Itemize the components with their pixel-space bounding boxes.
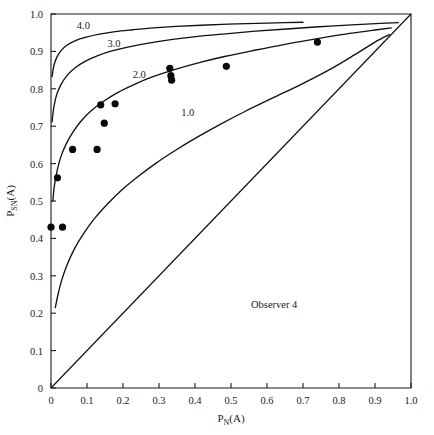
y-tick-label: 0.5 xyxy=(30,196,43,207)
x-axis-ticks xyxy=(51,383,411,388)
chance-diagonal-line xyxy=(51,14,411,388)
data-point xyxy=(47,224,54,231)
y-axis-title-sub: SN xyxy=(10,200,19,210)
data-point xyxy=(69,146,76,153)
y-axis-tick-labels: 00.10.20.30.40.50.60.70.80.91.0 xyxy=(30,9,44,394)
x-tick-label: 1.0 xyxy=(404,395,417,406)
data-point xyxy=(168,77,175,84)
data-point xyxy=(166,65,173,72)
y-axis-title-tail: (A) xyxy=(4,185,17,201)
roc-figure: 00.10.20.30.40.50.60.70.80.91.0 00.10.20… xyxy=(0,0,434,435)
annotation-observer-label: Observer 4 xyxy=(251,299,298,310)
x-tick-label: 0.2 xyxy=(116,395,129,406)
x-tick-label: 0.3 xyxy=(152,395,165,406)
x-axis-title-tail: (A) xyxy=(229,412,245,425)
curve-label-4-0: 4.0 xyxy=(77,20,90,31)
x-tick-label: 0.9 xyxy=(368,395,381,406)
data-point xyxy=(97,101,104,108)
data-point xyxy=(314,38,321,45)
x-tick-label: 0.5 xyxy=(224,395,237,406)
data-point xyxy=(54,174,61,181)
svg-text:PN(A): PN(A) xyxy=(217,412,245,427)
x-tick-label: 0 xyxy=(48,395,53,406)
iso-curve-3-0 xyxy=(52,23,398,122)
y-tick-label: 0.8 xyxy=(30,84,43,95)
x-axis-title: PN(A) xyxy=(217,412,245,427)
data-point xyxy=(101,120,108,127)
curve-label-2-0: 2.0 xyxy=(133,69,146,80)
y-tick-label: 0 xyxy=(38,383,43,394)
data-point xyxy=(111,100,118,107)
svg-text:PSN(A): PSN(A) xyxy=(4,185,19,217)
x-tick-label: 0.1 xyxy=(80,395,93,406)
curve-label-3-0: 3.0 xyxy=(107,38,120,49)
y-tick-label: 0.7 xyxy=(30,121,43,132)
y-tick-label: 0.4 xyxy=(30,233,44,244)
y-tick-label: 0.9 xyxy=(30,46,43,57)
x-tick-label: 0.7 xyxy=(296,395,309,406)
y-axis-title: PSN(A) xyxy=(4,185,19,217)
isosensitivity-curves xyxy=(51,14,411,388)
y-tick-label: 0.3 xyxy=(30,271,43,282)
roc-chart-svg: 00.10.20.30.40.50.60.70.80.91.0 00.10.20… xyxy=(0,0,434,435)
curve-label-1-0: 1.0 xyxy=(181,107,194,118)
x-tick-label: 0.6 xyxy=(260,395,273,406)
data-point xyxy=(223,63,230,70)
x-tick-label: 0.8 xyxy=(332,395,345,406)
data-point xyxy=(93,146,100,153)
x-tick-label: 0.4 xyxy=(188,395,202,406)
iso-curve-1-0 xyxy=(55,35,389,308)
y-tick-label: 0.1 xyxy=(30,346,43,357)
x-axis-tick-labels: 00.10.20.30.40.50.60.70.80.91.0 xyxy=(48,395,417,406)
y-tick-label: 0.6 xyxy=(30,159,43,170)
y-tick-label: 1.0 xyxy=(30,9,43,20)
data-point xyxy=(59,224,66,231)
y-tick-label: 0.2 xyxy=(30,308,43,319)
chart-annotations: Observer 4 xyxy=(251,299,298,310)
